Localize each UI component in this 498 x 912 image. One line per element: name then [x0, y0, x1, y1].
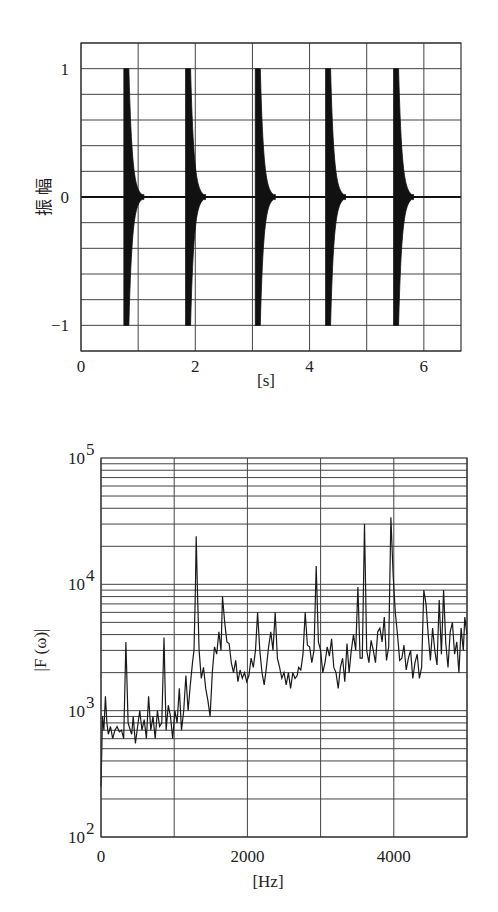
y-tick-exponent: 3	[86, 693, 95, 712]
y-tick-exponent: 5	[86, 440, 95, 459]
x-tick-label: 0	[97, 847, 106, 866]
spectrum-chart: 102103104105 020004000 [Hz] |F (ω)|	[31, 440, 467, 891]
y-tick-exponent: 2	[86, 819, 95, 838]
top-chart-x-axis-label: [s]	[257, 371, 275, 390]
y-tick-exponent: 4	[86, 566, 95, 585]
bottom-chart-frame	[101, 458, 467, 837]
top-chart-y-axis-label: 振 幅	[35, 178, 54, 216]
bottom-chart-y-axis-label: |F (ω)|	[31, 628, 50, 671]
y-tick-label: −1	[51, 316, 69, 335]
y-tick-label: 10	[68, 828, 85, 847]
bottom-chart-x-axis-label: [Hz]	[252, 872, 283, 891]
bottom-chart-spectrum-line	[101, 517, 467, 787]
y-tick-label: 10	[68, 702, 85, 721]
time-signal-chart: −101 0246 [s] 振 幅	[35, 43, 461, 390]
y-tick-label: 1	[61, 60, 70, 79]
x-tick-label: 6	[420, 357, 429, 376]
impulse-burst	[326, 69, 346, 326]
impulse-burst	[255, 69, 275, 326]
figure: −101 0246 [s] 振 幅 102103104105 020004000…	[0, 0, 498, 912]
bottom-chart-grid	[101, 458, 467, 837]
bottom-chart-y-tick-labels: 102103104105	[68, 440, 95, 847]
x-tick-label: 2000	[230, 847, 264, 866]
y-tick-label: 10	[68, 449, 85, 468]
top-chart-x-tick-labels: 0246	[77, 357, 428, 376]
x-tick-label: 0	[77, 357, 86, 376]
x-tick-label: 2	[191, 357, 200, 376]
impulse-burst	[394, 69, 414, 326]
x-tick-label: 4	[305, 357, 314, 376]
impulse-burst	[124, 69, 144, 326]
x-tick-label: 4000	[377, 847, 411, 866]
y-tick-label: 10	[68, 575, 85, 594]
y-tick-label: 0	[61, 188, 70, 207]
bottom-chart-x-tick-labels: 020004000	[97, 847, 411, 866]
